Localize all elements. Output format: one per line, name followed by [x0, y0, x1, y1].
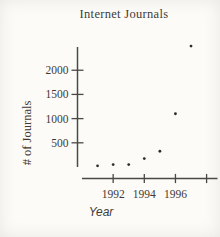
scatter-plot-canvas: 500100015002000199219941996: [0, 0, 220, 237]
y-tick-label: 1000: [46, 113, 69, 125]
x-tick-label: 1992: [102, 188, 125, 200]
data-point: [190, 45, 193, 48]
x-axis-title: Year: [89, 205, 114, 219]
y-tick-label: 1500: [46, 88, 69, 100]
data-point: [143, 157, 146, 160]
y-tick-label: 500: [51, 137, 69, 149]
x-tick-label: 1994: [133, 188, 156, 200]
data-point: [127, 163, 130, 166]
data-point: [112, 163, 115, 166]
y-tick-label: 2000: [46, 64, 69, 76]
data-point: [174, 112, 177, 115]
x-tick-label: 1996: [164, 188, 187, 200]
scatter-plot-figure: Internet Journals # of Journals 50010001…: [0, 0, 220, 237]
data-point: [158, 150, 161, 153]
data-point: [96, 164, 99, 167]
